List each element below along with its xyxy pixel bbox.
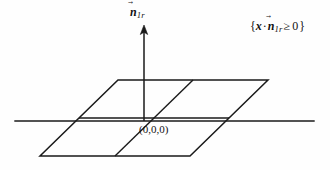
figure-container: ⃗n1r {x·⃗n1r≥0} (0,0,0) xyxy=(0,0,330,170)
set-condition-label: {x·⃗n1r≥0} xyxy=(250,20,305,34)
normal-vector-label: ⃗n1r xyxy=(130,6,145,20)
normal-vector-base: n xyxy=(130,5,137,19)
set-normal-vector-base: n xyxy=(268,19,275,33)
zero-value: 0 xyxy=(291,19,299,33)
origin-coordinate-label: (0,0,0) xyxy=(139,124,168,135)
normal-vector-subscript: 1r xyxy=(137,10,145,20)
set-normal-vector-symbol: ⃗n xyxy=(268,20,275,32)
geq-relation: ≥ xyxy=(283,19,292,33)
vector-x-symbol: x xyxy=(256,19,262,33)
set-normal-vector-subscript: 1r xyxy=(274,24,282,34)
close-brace: } xyxy=(299,19,305,33)
normal-vector-symbol: ⃗n xyxy=(130,6,137,18)
